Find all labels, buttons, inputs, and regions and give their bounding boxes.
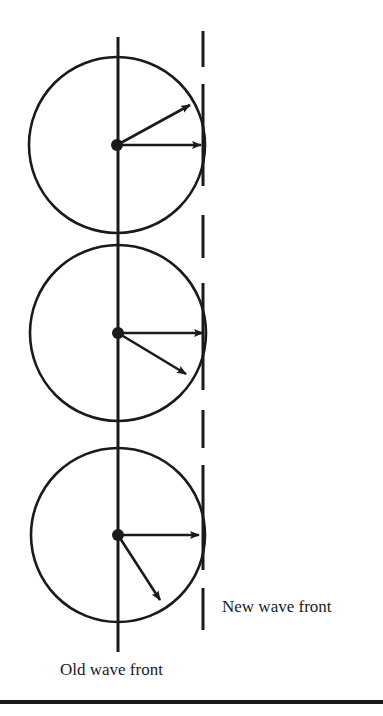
old-wave-front-label: Old wave front — [60, 660, 163, 679]
new-wave-front-label: New wave front — [222, 597, 332, 616]
propagation-arrow-icon — [118, 535, 160, 600]
propagation-arrow-icon — [117, 105, 190, 145]
huygens-wavefront-diagram: New wave front Old wave front — [0, 0, 383, 716]
bottom-rule-divider — [0, 700, 383, 704]
propagation-arrow-icon — [118, 333, 186, 374]
